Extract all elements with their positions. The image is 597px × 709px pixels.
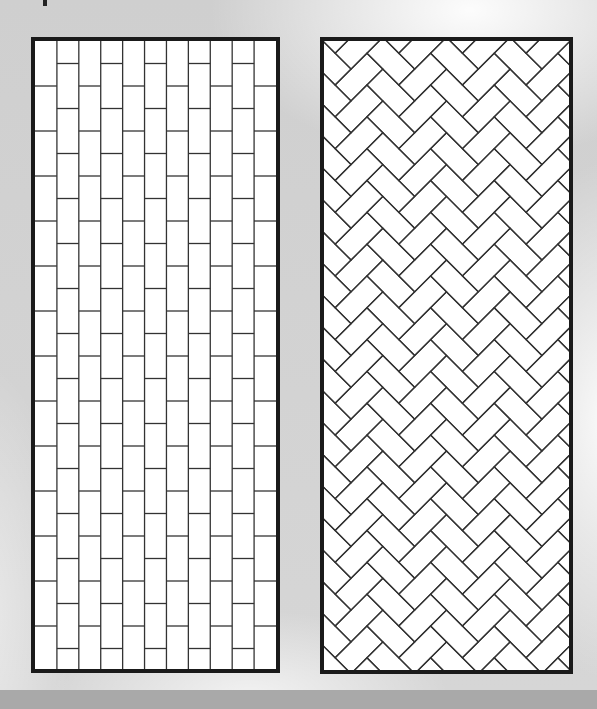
offset-brick-pattern-panel bbox=[31, 37, 280, 673]
top-edge-mark bbox=[43, 0, 47, 6]
herringbone-pattern-panel bbox=[320, 37, 573, 674]
offset-brick-pattern-drawing bbox=[31, 37, 280, 673]
bottom-band bbox=[0, 690, 597, 709]
herringbone-pattern-drawing bbox=[320, 37, 573, 674]
